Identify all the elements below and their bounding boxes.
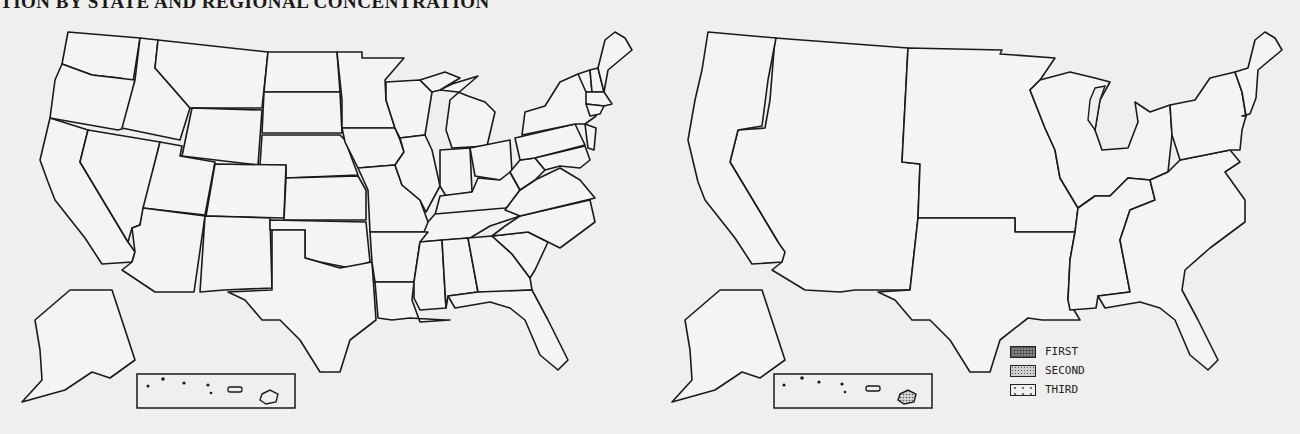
regional-concentration-map bbox=[650, 0, 1300, 434]
state-concentration-map bbox=[0, 0, 650, 434]
state-indiana bbox=[440, 148, 472, 196]
legend-label: THIRD bbox=[1045, 383, 1078, 396]
state-ohio-shaded bbox=[470, 140, 512, 180]
map-legend: FIRST SECOND THIRD bbox=[1010, 342, 1085, 399]
state-florida bbox=[448, 290, 568, 370]
legend-item-second: SECOND bbox=[1010, 361, 1085, 380]
state-wyoming bbox=[182, 108, 262, 165]
legend-label: FIRST bbox=[1045, 345, 1078, 358]
legend-label: SECOND bbox=[1045, 364, 1085, 377]
second-pattern-swatch-icon bbox=[1010, 365, 1036, 377]
state-kansas bbox=[284, 176, 366, 220]
legend-item-third: THIRD bbox=[1010, 380, 1085, 399]
state-alaska bbox=[22, 290, 135, 402]
first-pattern-swatch-icon bbox=[1010, 346, 1036, 358]
state-north-dakota bbox=[264, 52, 340, 92]
region-middle-atlantic bbox=[1170, 72, 1246, 160]
state-south-dakota bbox=[262, 92, 342, 133]
state-michigan-shaded bbox=[420, 72, 495, 148]
state-colorado bbox=[206, 164, 286, 218]
state-new-mexico bbox=[200, 216, 272, 292]
hawaii-islands bbox=[783, 376, 847, 393]
state-mississippi bbox=[414, 240, 446, 310]
third-pattern-swatch-icon bbox=[1010, 384, 1036, 396]
state-connecticut bbox=[586, 104, 604, 116]
hawaii-islands bbox=[147, 377, 213, 394]
state-alaska-second bbox=[672, 290, 785, 402]
state-new-jersey bbox=[585, 124, 596, 150]
legend-item-first: FIRST bbox=[1010, 342, 1085, 361]
state-maine bbox=[598, 32, 632, 92]
